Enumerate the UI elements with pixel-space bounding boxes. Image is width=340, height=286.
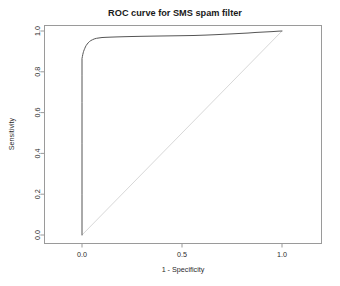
roc-chart-svg: ROC curve for SMS spam filter 0.00.20.40… [0, 0, 340, 286]
y-tick-label: 1.0 [33, 26, 42, 36]
y-tick-label: 0.6 [33, 108, 42, 118]
y-tick-label: 0.8 [33, 67, 42, 77]
x-tick-label: 1.0 [277, 250, 287, 259]
x-tick-label: 0.0 [77, 250, 87, 259]
roc-plot-container: ROC curve for SMS spam filter 0.00.20.40… [0, 0, 340, 286]
x-axis-label: 1 - Specificity [162, 265, 205, 274]
y-axis-label: Sensitivity [7, 117, 16, 150]
y-tick-label: 0.4 [33, 148, 42, 158]
y-tick-label: 0.2 [33, 189, 42, 199]
y-tick-label: 0.0 [33, 230, 42, 240]
chart-title: ROC curve for SMS spam filter [108, 8, 242, 18]
x-tick-label: 0.5 [177, 250, 187, 259]
